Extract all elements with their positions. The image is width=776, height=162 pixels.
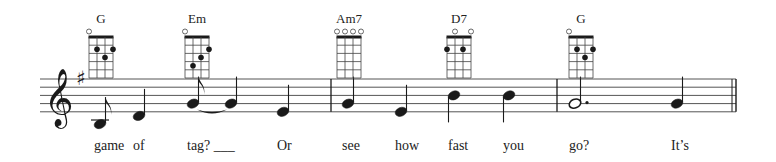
finger-dot [94,47,100,53]
lyric-syllable: game [94,138,124,153]
flag [106,97,112,115]
finger-dot [574,47,580,53]
nut [185,36,210,39]
note-g4-half [568,77,589,110]
note-g4-quarter [341,77,355,110]
chord-diagrams: GEmAm7D7G [87,11,596,78]
key-signature: ♯ [76,66,86,90]
open-string-icon [183,29,188,34]
note-g4-quarter [224,77,238,110]
chord-name: Em [188,11,206,26]
chord-diagram-g: G [87,11,116,78]
open-string-icon [343,29,348,34]
nut [337,36,362,39]
note-e4-quarter [276,85,290,118]
open-string-icon [351,29,356,34]
lyric-syllable: of [133,138,145,153]
chord-name: G [576,11,585,26]
nut [447,36,472,39]
finger-dot [206,47,212,53]
chord-diagram-g: G [567,11,596,78]
finger-dot [582,55,588,61]
chord-name: D7 [451,11,467,26]
sheet-music: 𝄞 ♯ GEmAm7D7G gameoftag? ___Orseehowfast… [0,0,776,162]
open-string-icon [453,29,458,34]
note-g4-quarter [670,77,684,110]
lyric-syllable: you [503,138,524,153]
note-b3-eighth [91,97,111,130]
note-d4-quarter [132,89,146,122]
lyric-syllable: Or [277,138,292,153]
chord-name: G [96,11,105,26]
nut [89,36,114,39]
chord-diagram-am7: Am7 [335,11,364,78]
chord-diagram-em: Em [183,11,212,78]
treble-clef-glyph: 𝄞 [44,68,74,129]
open-string-icon [87,29,92,34]
open-string-icon [359,29,364,34]
finger-dot [460,47,466,53]
open-string-icon [567,29,572,34]
lyric-syllable: fast [448,138,468,153]
treble-clef-icon: 𝄞 [44,68,74,129]
chord-diagram-d7: D7 [444,11,473,78]
finger-dot [110,47,116,53]
finger-dot [198,55,204,61]
note-e4-quarter [394,85,408,118]
augmentation-dot [585,101,588,104]
lyric-syllable: how [395,138,420,153]
open-string-icon [469,29,474,34]
sharp-icon: ♯ [76,66,86,90]
finger-dot [444,47,450,53]
lyric-syllable: go? [569,138,589,153]
chord-name: Am7 [336,11,363,26]
note-b4-quarter [502,89,516,122]
lyric-syllable: tag? ___ [187,138,236,153]
open-string-icon [335,29,340,34]
finger-dot [190,63,196,69]
finger-dot [102,55,108,61]
lyric-syllable: see [342,138,360,153]
note-b4-quarter [447,89,461,122]
lyrics: gameoftag? ___Orseehowfastyougo?It’s [94,138,689,153]
lyric-syllable: It’s [671,138,689,153]
nut [569,36,594,39]
finger-dot [590,47,596,53]
